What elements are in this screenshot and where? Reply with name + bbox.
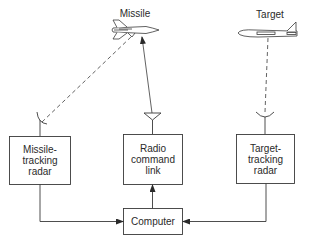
- target-label: Target: [253, 9, 287, 20]
- missile-icon: [112, 20, 159, 39]
- radio-command-link-text: Radio command link: [131, 143, 175, 176]
- radio-command-link-label: Radio command link: [124, 135, 182, 184]
- missile-radar-dish-icon: [37, 112, 47, 136]
- missile-label: Missile: [118, 8, 152, 19]
- missile-tracking-beam: [42, 36, 132, 122]
- diagram-graphics: [0, 0, 311, 242]
- antenna-icon: [144, 113, 161, 134]
- target-radar-to-computer-arrow: [183, 184, 266, 222]
- target-radar-dish-icon: [256, 112, 274, 134]
- missile-radar-to-computer-arrow: [40, 185, 123, 222]
- target-tracking-radar-label: Target- tracking radar: [237, 135, 294, 183]
- command-signal-line: [142, 37, 152, 113]
- target-tracking-beam: [265, 38, 268, 112]
- target-tracking-radar-text: Target- tracking radar: [248, 143, 283, 176]
- computer-label: Computer: [124, 209, 182, 234]
- target-aircraft-icon: [238, 22, 297, 37]
- missile-tracking-radar-label: Missile- tracking radar: [10, 137, 70, 184]
- computer-text: Computer: [131, 216, 175, 227]
- command-guidance-diagram: Missile Target Missile- tracking radar R…: [0, 0, 311, 242]
- missile-tracking-radar-text: Missile- tracking radar: [22, 144, 57, 177]
